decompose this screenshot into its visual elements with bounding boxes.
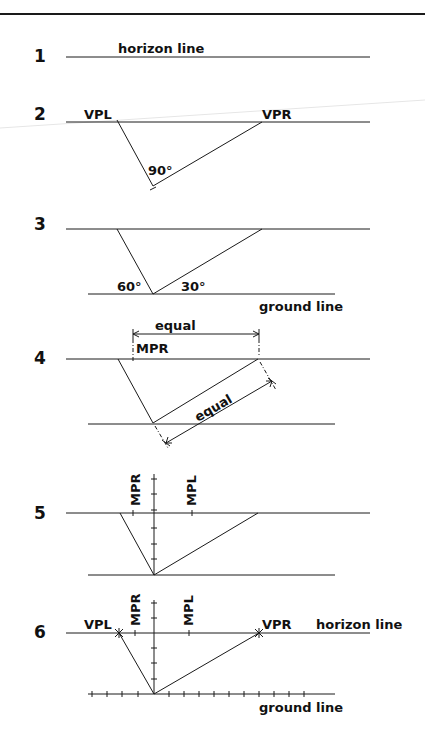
step-number: 6 — [34, 622, 46, 642]
equal-label-diag: equal — [192, 391, 235, 424]
step-4: 4 equal MPR equal — [34, 318, 370, 448]
left-angle-label: 60° — [117, 279, 142, 294]
ground-line-label: ground line — [259, 700, 343, 715]
equal-label-top: equal — [155, 318, 196, 333]
vpl-label: VPL — [84, 107, 112, 122]
horizon-line-label: horizon line — [316, 617, 402, 632]
horizon-line-label: horizon line — [118, 41, 204, 56]
step-1: 1 horizon line — [34, 41, 370, 66]
step-2: 2 VPL VPR 90° — [34, 104, 370, 190]
scan-artifact-line — [0, 100, 425, 128]
mpl-label: MPL — [184, 475, 199, 506]
step-number: 5 — [34, 503, 46, 523]
step-number: 3 — [34, 214, 46, 234]
vpl-label: VPL — [84, 617, 112, 632]
perspective-construction-diagram: 1 horizon line 2 VPL VPR 90° 3 60° 30° g… — [0, 0, 425, 738]
right-ray — [154, 633, 259, 694]
step-number: 2 — [34, 104, 46, 124]
step-number: 4 — [34, 348, 46, 368]
extension-line-diag — [260, 362, 276, 390]
right-ray — [153, 229, 262, 294]
ground-line-label: ground line — [259, 299, 343, 314]
left-ray — [120, 513, 154, 575]
left-ray — [119, 633, 154, 694]
left-ray — [118, 359, 153, 423]
step-6: 6 VPL VPR horizon line MPR MPL ground li… — [34, 594, 402, 715]
step-5: 5 MPR MPL — [34, 474, 370, 575]
extension-line-diag — [155, 426, 168, 448]
step-3: 3 60° 30° ground line — [34, 214, 370, 314]
right-angle-label: 90° — [148, 163, 173, 178]
vpr-label: VPR — [262, 617, 292, 632]
right-ray — [154, 513, 258, 575]
step-number: 1 — [34, 46, 46, 66]
mpr-label: MPR — [128, 594, 143, 626]
mpl-label: MPL — [181, 595, 196, 626]
right-angle-label: 30° — [181, 279, 206, 294]
mpr-label: MPR — [136, 341, 168, 356]
vpr-label: VPR — [262, 107, 292, 122]
mpr-label: MPR — [128, 474, 143, 506]
vertex-tick — [150, 187, 156, 190]
